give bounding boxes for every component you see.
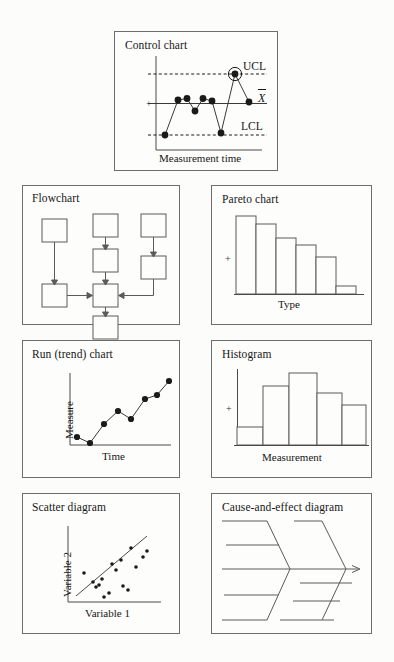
panel-run-chart: Run (trend) chart Measure Time	[22, 340, 180, 478]
scatter-point	[110, 562, 114, 566]
flowchart-arrow	[124, 279, 154, 296]
flowchart-node	[141, 214, 166, 237]
run-chart-axes	[70, 373, 171, 445]
pareto-bar	[256, 224, 276, 294]
fishbone-bone-upper	[322, 521, 346, 569]
control-chart-point	[218, 130, 225, 137]
histogram-bar	[342, 405, 366, 445]
histogram-bar	[317, 393, 342, 445]
run-chart-point	[166, 378, 172, 384]
control-chart-point	[192, 108, 199, 115]
scatter-point	[145, 549, 149, 553]
scatter-point	[107, 591, 111, 595]
histogram-x-axis-label: Measurement	[262, 451, 322, 463]
xbar-overline	[258, 89, 266, 90]
xbar-letter: X	[258, 91, 265, 105]
scatter-point	[97, 583, 101, 587]
scatter-point	[82, 571, 86, 575]
pareto-chart-x-axis-label: Type	[278, 298, 300, 310]
scatter-point	[129, 546, 133, 550]
pareto-bar	[336, 286, 356, 294]
run-chart-series-line	[77, 381, 169, 443]
run-chart-point	[101, 421, 107, 427]
histogram-bar	[289, 373, 317, 445]
scatter-diagram-x-axis-label: Variable 1	[85, 607, 130, 619]
control-chart-point	[209, 98, 216, 105]
histogram-bar	[263, 386, 289, 445]
panel-control-chart: Control chart + UCL	[114, 31, 278, 171]
run-chart-point	[128, 416, 134, 422]
scatter-diagram-y-axis-label: Variable 2	[61, 552, 73, 597]
flowchart-node	[93, 249, 118, 272]
flowchart-node	[42, 219, 67, 242]
panel-cause-and-effect-diagram: Cause-and-effect diagram	[211, 493, 372, 634]
histogram-center-plus: +	[226, 404, 232, 414]
control-chart-center-plus: +	[146, 99, 152, 109]
control-chart-point	[200, 95, 207, 102]
control-chart-point	[184, 95, 191, 102]
scatter-point	[141, 555, 145, 559]
panel-scatter-diagram: Scatter diagram	[22, 493, 180, 634]
control-chart-point	[175, 97, 182, 104]
control-chart-lcl-label: LCL	[241, 120, 263, 132]
flowchart-node	[141, 256, 166, 279]
control-chart-point	[246, 99, 253, 106]
scatter-point	[94, 585, 98, 589]
pareto-bar	[236, 216, 256, 294]
control-chart-x-axis-label: Measurement time	[159, 152, 241, 164]
scatter-point	[102, 595, 106, 599]
flowchart-node	[42, 284, 67, 307]
fishbone-diagram	[212, 494, 373, 635]
flowchart-node	[93, 316, 118, 339]
scatter-point	[91, 580, 95, 584]
fishbone-bone-lower	[322, 569, 346, 620]
pareto-bar	[316, 257, 336, 294]
flowchart-node	[93, 214, 118, 237]
run-chart-y-axis-label: Measure	[63, 401, 75, 439]
scatter-points	[82, 546, 149, 599]
panel-flowchart: Flowchart	[22, 185, 180, 325]
control-chart-point	[162, 132, 169, 139]
run-chart-point	[154, 392, 160, 398]
scatter-point	[114, 568, 118, 572]
control-chart-plot	[115, 32, 279, 172]
control-chart-centerline-label: X	[258, 89, 266, 106]
flowchart-arrowhead	[119, 293, 125, 299]
scatter-point	[119, 558, 123, 562]
scatter-point	[100, 577, 104, 581]
run-chart-x-axis-label: Time	[102, 450, 125, 462]
panel-histogram: Histogram + Measurement	[211, 340, 372, 478]
run-chart-points	[74, 378, 172, 446]
pareto-chart-center-plus: +	[225, 254, 231, 264]
control-chart-ucl-label: UCL	[243, 60, 266, 72]
scatter-point	[121, 584, 125, 588]
run-chart-point	[87, 440, 93, 446]
run-chart-point	[142, 396, 148, 402]
flowchart-node	[93, 284, 118, 307]
control-chart-point-outlier	[232, 71, 239, 78]
figure-page: Control chart + UCL	[0, 0, 394, 662]
histogram-bar	[237, 427, 263, 445]
control-chart-series-line	[165, 74, 249, 135]
panel-pareto-chart: Pareto chart + Type	[211, 185, 372, 325]
pareto-bar	[276, 238, 296, 294]
flowchart-graph	[23, 186, 181, 326]
scatter-point	[134, 565, 138, 569]
flowchart-arrowhead	[87, 293, 93, 299]
scatter-point	[126, 588, 130, 592]
pareto-bar	[296, 245, 316, 294]
run-chart-point	[115, 408, 121, 414]
